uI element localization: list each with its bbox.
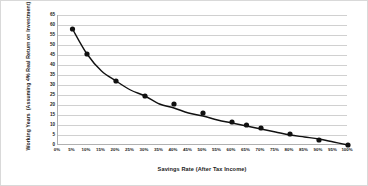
y-axis-title-line1: Working Years xyxy=(26,113,31,150)
x-axis-tick-label: 65% xyxy=(241,148,250,152)
data-point-marker xyxy=(113,78,118,83)
data-point-marker xyxy=(70,26,75,31)
y-axis-tick-label: 5 xyxy=(52,133,55,138)
y-axis-tick-label: 65 xyxy=(50,13,55,18)
x-axis-tick-label: 85% xyxy=(299,148,308,152)
x-axis-title: Savings Rate (After Tax Income) xyxy=(57,166,347,172)
x-axis-tick-labels: 0%5%10%15%20%25%30%35%40%45%50%55%60%65%… xyxy=(57,148,347,158)
y-axis-tick-label: 15 xyxy=(50,113,55,118)
data-point-marker xyxy=(316,137,321,142)
x-axis-tick-label: 75% xyxy=(270,148,279,152)
y-axis-tick-label: 45 xyxy=(50,53,55,58)
x-axis-tick-label: 95% xyxy=(328,148,337,152)
gridline xyxy=(58,145,347,146)
data-point-marker xyxy=(142,93,147,98)
data-point-marker xyxy=(84,51,89,56)
y-axis-tick-label: 60 xyxy=(50,23,55,28)
y-axis-tick-label: 50 xyxy=(50,43,55,48)
plot-area xyxy=(57,15,347,145)
x-axis-tick-label: 35% xyxy=(154,148,163,152)
y-axis-tick-label: 20 xyxy=(50,103,55,108)
x-axis-tick-label: 40% xyxy=(169,148,178,152)
x-axis-tick-label: 5% xyxy=(68,148,74,152)
data-point-marker xyxy=(287,131,292,136)
y-axis-tick-label: 35 xyxy=(50,73,55,78)
x-axis-tick-label: 100% xyxy=(341,148,352,152)
data-point-marker xyxy=(244,122,249,127)
x-axis-tick-label: 80% xyxy=(285,148,294,152)
y-axis-tick-labels: 05101520253035404550556065 xyxy=(41,15,55,145)
y-axis-tick-label: 25 xyxy=(50,93,55,98)
y-axis-tick-label: 55 xyxy=(50,33,55,38)
y-axis-title-line2: (Assuming 4% Real Return on Investment) xyxy=(26,2,31,111)
x-axis-tick-label: 15% xyxy=(96,148,105,152)
data-point-marker xyxy=(171,101,176,106)
y-axis-tick-label: 40 xyxy=(50,63,55,68)
x-axis-tick-label: 90% xyxy=(314,148,323,152)
data-point-marker xyxy=(258,125,263,130)
y-axis-tick-label: 30 xyxy=(50,83,55,88)
series-line-working-years xyxy=(58,15,348,145)
x-axis-tick-label: 30% xyxy=(140,148,149,152)
x-axis-tick-label: 20% xyxy=(111,148,120,152)
x-axis-tick-label: 70% xyxy=(256,148,265,152)
series-path xyxy=(73,29,349,145)
x-axis-tick-label: 25% xyxy=(125,148,134,152)
x-axis-tick-label: 50% xyxy=(198,148,207,152)
x-axis-tick-label: 45% xyxy=(183,148,192,152)
data-point-marker xyxy=(229,119,234,124)
x-axis-tick-label: 60% xyxy=(227,148,236,152)
y-axis-tick-label: 10 xyxy=(50,123,55,128)
chart-figure: Working Years (Assuming 4% Real Return o… xyxy=(0,0,368,186)
x-axis-tick-label: 10% xyxy=(82,148,91,152)
x-axis-tick-label: 0% xyxy=(54,148,60,152)
data-point-marker xyxy=(200,110,205,115)
x-axis-tick-label: 55% xyxy=(212,148,221,152)
